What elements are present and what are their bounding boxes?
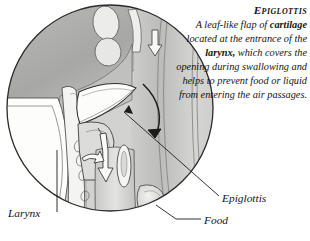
caption-block: Epiglottis A leaf-like flap of cartilage… <box>176 3 307 103</box>
epiglottis-diagram-page: Epiglottis A leaf-like flap of cartilage… <box>0 0 310 241</box>
label-larynx: Larynx <box>8 207 40 219</box>
esophagus-inner <box>121 151 127 177</box>
label-food: Food <box>204 214 228 226</box>
caption-body: A leaf-like flap of cartilage located at… <box>176 18 307 103</box>
label-epiglottis: Epiglottis <box>222 192 266 204</box>
leader-line-food <box>156 205 201 219</box>
caption-title: Epiglottis <box>176 3 307 17</box>
